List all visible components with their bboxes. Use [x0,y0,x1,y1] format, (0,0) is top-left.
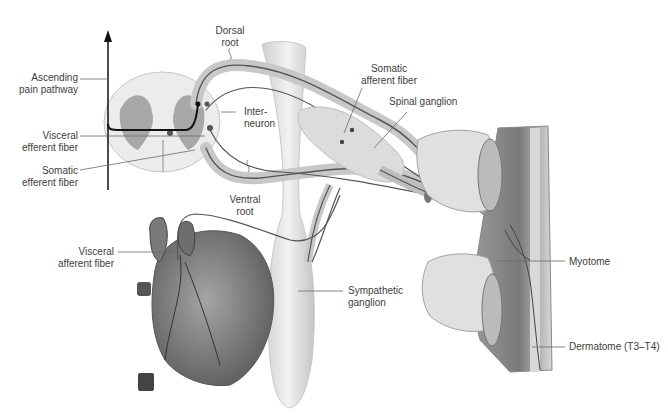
label-somatic-afferent-fiber: Somatic afferent fiber [334,63,444,87]
sympathetic-trunk [262,42,314,408]
heart [137,218,274,391]
body-wall-section [417,126,552,372]
label-dermatome: Dermatome (T3–T4) [569,341,667,353]
label-dorsal-root: Dorsal root [210,25,250,49]
rami-communicantes [308,185,340,262]
label-somatic-efferent-fiber: Somatic efferent fiber [16,165,78,189]
label-sympathetic-ganglion: Sympathetic ganglion [348,285,418,309]
label-myotome: Myotome [569,256,629,268]
label-ventral-root: Ventral root [222,194,268,218]
label-spinal-ganglion: Spinal ganglion [389,96,479,108]
label-ascending-pain-pathway: Ascending pain pathway [16,72,78,96]
label-visceral-efferent-fiber: Visceral efferent fiber [16,130,78,154]
label-visceral-afferent-fiber: Visceral afferent fiber [50,246,114,270]
label-interneuron: Inter- neuron [244,106,294,130]
